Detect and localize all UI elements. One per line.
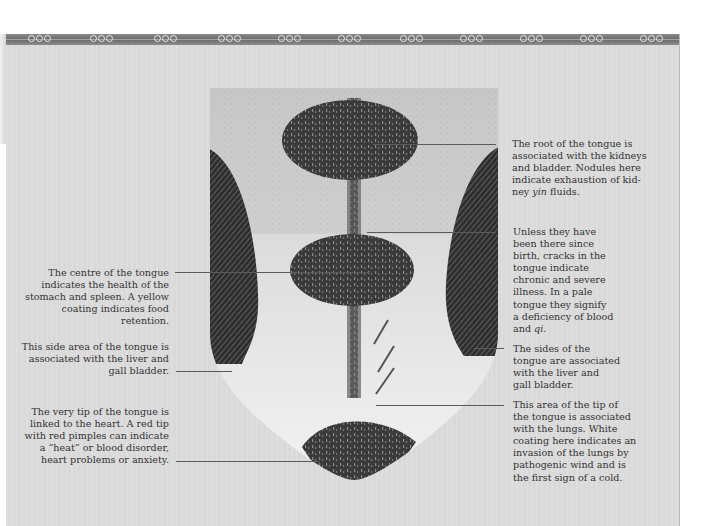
annotation-line: tongue are associated xyxy=(513,355,663,367)
cloud-scroll-icon xyxy=(88,35,114,44)
annotation-line: gall bladder. xyxy=(513,379,663,391)
annotation-line: tongue they signify xyxy=(513,299,663,311)
annotation-text: and xyxy=(513,323,534,334)
cloud-scroll-icon xyxy=(638,35,664,44)
leader-line-tip-left xyxy=(176,461,320,462)
cloud-scroll-icon xyxy=(276,35,302,44)
annotation-line: associated with the kidneys xyxy=(512,150,672,162)
annotation-line: chronic and severe xyxy=(513,274,663,286)
leader-line-side-left xyxy=(176,371,232,372)
annotation-line: the first sign of a cold. xyxy=(513,472,673,484)
leader-line-root xyxy=(373,144,496,145)
annotation-centre: The centre of the tongue indicates the h… xyxy=(20,267,169,327)
annotation-line: a deficiency of blood xyxy=(513,311,663,323)
cloud-scroll-icon xyxy=(216,35,242,44)
cloud-scroll-icon xyxy=(26,35,52,44)
annotation-italic: qi xyxy=(534,323,543,334)
annotation-line: the tongue is associated xyxy=(513,411,673,423)
annotation-sides-right: The sides of the tongue are associated w… xyxy=(513,343,663,391)
annotation-cracks: Unless they have been there since birth,… xyxy=(513,226,663,335)
annotation-line: The very tip of the tongue is xyxy=(20,406,169,418)
annotation-line: associated with the liver and xyxy=(20,353,169,365)
annotation-line: coating here indicates an xyxy=(513,435,673,447)
annotation-side-left: This side area of the tongue is associat… xyxy=(20,341,169,377)
cloud-scroll-icon xyxy=(398,35,424,44)
annotation-text: . xyxy=(543,323,546,334)
annotation-line: indicate exhaustion of kid- xyxy=(512,174,672,186)
leader-line-centre xyxy=(175,272,370,273)
annotation-line: Unless they have xyxy=(513,226,663,238)
annotation-line: a “heat” or blood disorder, xyxy=(20,442,169,454)
annotation-line: with the liver and xyxy=(513,367,663,379)
annotation-line: invasion of the lungs by xyxy=(513,447,673,459)
annotation-line: The sides of the xyxy=(513,343,663,355)
annotation-line: The centre of the tongue xyxy=(20,267,169,279)
cloud-scroll-icon xyxy=(578,35,604,44)
annotation-text: fluids. xyxy=(547,186,580,197)
annotation-line: linked to the heart. A red tip xyxy=(20,418,169,430)
leader-line-sides-right xyxy=(474,348,504,349)
annotation-line: The root of the tongue is xyxy=(512,138,672,150)
annotation-root: The root of the tongue is associated wit… xyxy=(512,138,672,198)
cloud-scroll-icon xyxy=(518,35,544,44)
annotation-line: with red pimples can indicate xyxy=(20,430,169,442)
annotation-italic: yin xyxy=(532,186,547,197)
annotation-line: heart problems or anxiety. xyxy=(20,454,169,466)
annotation-line: birth, cracks in the xyxy=(513,250,663,262)
annotation-line: coating indicates food retention. xyxy=(20,303,169,327)
annotation-line: pathogenic wind and is xyxy=(513,459,673,471)
leader-line-cracks xyxy=(367,232,496,233)
annotation-line: with the lungs. White xyxy=(513,423,673,435)
annotation-line: and bladder. Nodules here xyxy=(512,162,672,174)
annotation-line: This side area of the tongue is xyxy=(20,341,169,353)
annotation-line: illness. In a pale xyxy=(513,286,663,298)
annotation-text: ney xyxy=(512,186,532,197)
annotation-tip-left: The very tip of the tongue is linked to … xyxy=(20,406,169,466)
annotation-line: gall bladder. xyxy=(20,365,169,377)
annotation-line: ney yin fluids. xyxy=(512,186,672,198)
annotation-line: and qi. xyxy=(513,323,663,335)
decorative-border xyxy=(6,34,679,45)
annotation-line: indicates the health of the xyxy=(20,279,169,291)
annotation-line: This area of the tip of xyxy=(513,399,673,411)
cloud-scroll-icon xyxy=(458,35,484,44)
annotation-line: tongue indicate xyxy=(513,262,663,274)
annotation-tip-right: This area of the tip of the tongue is as… xyxy=(513,399,673,484)
annotation-line: been there since xyxy=(513,238,663,250)
leader-line-tip-right xyxy=(376,405,504,406)
annotation-line: stomach and spleen. A yellow xyxy=(20,291,169,303)
cloud-scroll-icon xyxy=(336,35,362,44)
cloud-scroll-icon xyxy=(152,35,178,44)
